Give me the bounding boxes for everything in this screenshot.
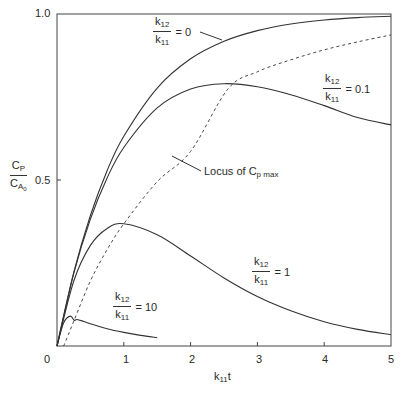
x-tick-4: 4 (322, 354, 328, 365)
label-k-ratio-1: k12 k11 = 1 (252, 256, 290, 287)
x-tick-3: 3 (256, 354, 262, 365)
x-axis-label: k11t (214, 371, 231, 384)
y-tick-0.5: 0.5 (35, 175, 50, 186)
label-k-ratio-0: k12 k11 = 0 (153, 16, 191, 47)
x-tick-1: 1 (123, 354, 129, 365)
chart-canvas (0, 0, 404, 394)
leader-line-k0 (200, 32, 222, 40)
x-tick-2: 2 (189, 354, 195, 365)
y-axis-label: CP CA0 (8, 160, 33, 192)
x-tick-5: 5 (388, 354, 394, 365)
curve-k12-k11-0 (57, 16, 391, 346)
plot-frame (57, 14, 391, 346)
leader-line-locus (172, 156, 201, 171)
y-tick-1.0: 1.0 (35, 8, 50, 19)
curves (57, 16, 391, 346)
label-locus-cp-max: Locus of Cp max (204, 166, 278, 179)
curve-k12-k11-0-1 (57, 84, 391, 346)
label-k-ratio-0.1: k12 k11 = 0.1 (323, 73, 370, 104)
label-k-ratio-10: k12 k11 = 10 (113, 291, 157, 322)
curve-k12-k11-1 (57, 224, 391, 346)
x-tick-0: 0 (44, 354, 50, 365)
